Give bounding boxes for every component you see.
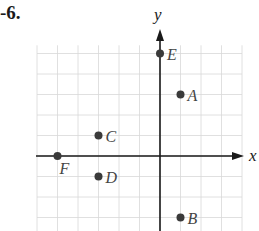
point-label-B: B bbox=[188, 210, 198, 227]
y-axis-arrow bbox=[156, 29, 164, 41]
point-label-D: D bbox=[105, 169, 118, 186]
point-label-A: A bbox=[187, 87, 198, 104]
point-label-F: F bbox=[59, 160, 70, 177]
coordinate-plane: EACFDB x y bbox=[0, 0, 259, 231]
points: EACFDB bbox=[54, 46, 198, 227]
y-axis-label: y bbox=[152, 5, 162, 24]
point-F bbox=[54, 152, 62, 160]
point-E bbox=[156, 50, 164, 58]
grid bbox=[37, 45, 242, 231]
point-label-E: E bbox=[166, 46, 177, 63]
point-C bbox=[95, 132, 103, 140]
point-B bbox=[177, 214, 185, 222]
point-D bbox=[95, 173, 103, 181]
axes bbox=[36, 29, 244, 231]
point-A bbox=[177, 91, 185, 99]
point-label-C: C bbox=[106, 128, 117, 145]
x-axis-label: x bbox=[248, 146, 257, 165]
